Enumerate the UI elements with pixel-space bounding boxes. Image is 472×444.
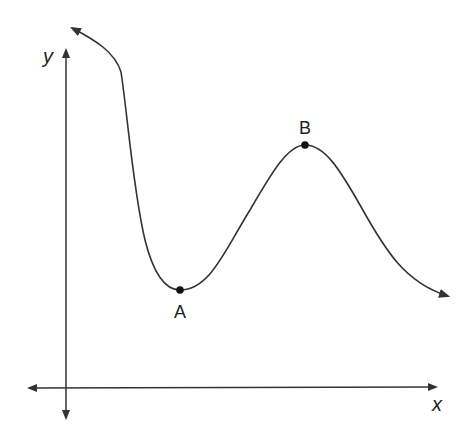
point-a-label: A (174, 302, 186, 322)
point-a (176, 286, 184, 294)
x-axis (29, 387, 436, 388)
point-b-label: B (299, 118, 311, 138)
y-axis-label: y (41, 45, 54, 67)
function-graph: A B y x (0, 0, 472, 444)
function-curve (72, 28, 448, 296)
x-axis-label: x (431, 393, 443, 415)
point-b (301, 141, 309, 149)
